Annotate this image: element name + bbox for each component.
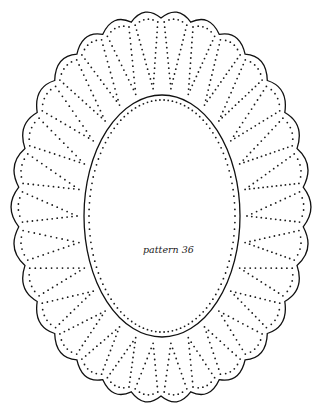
- petal-dot-lines: [18, 18, 305, 395]
- pattern-label: pattern 36: [143, 244, 194, 255]
- inner-oval-border: [84, 95, 240, 337]
- inner-oval-dot-line: [88, 99, 236, 333]
- pattern-svg: [0, 0, 318, 414]
